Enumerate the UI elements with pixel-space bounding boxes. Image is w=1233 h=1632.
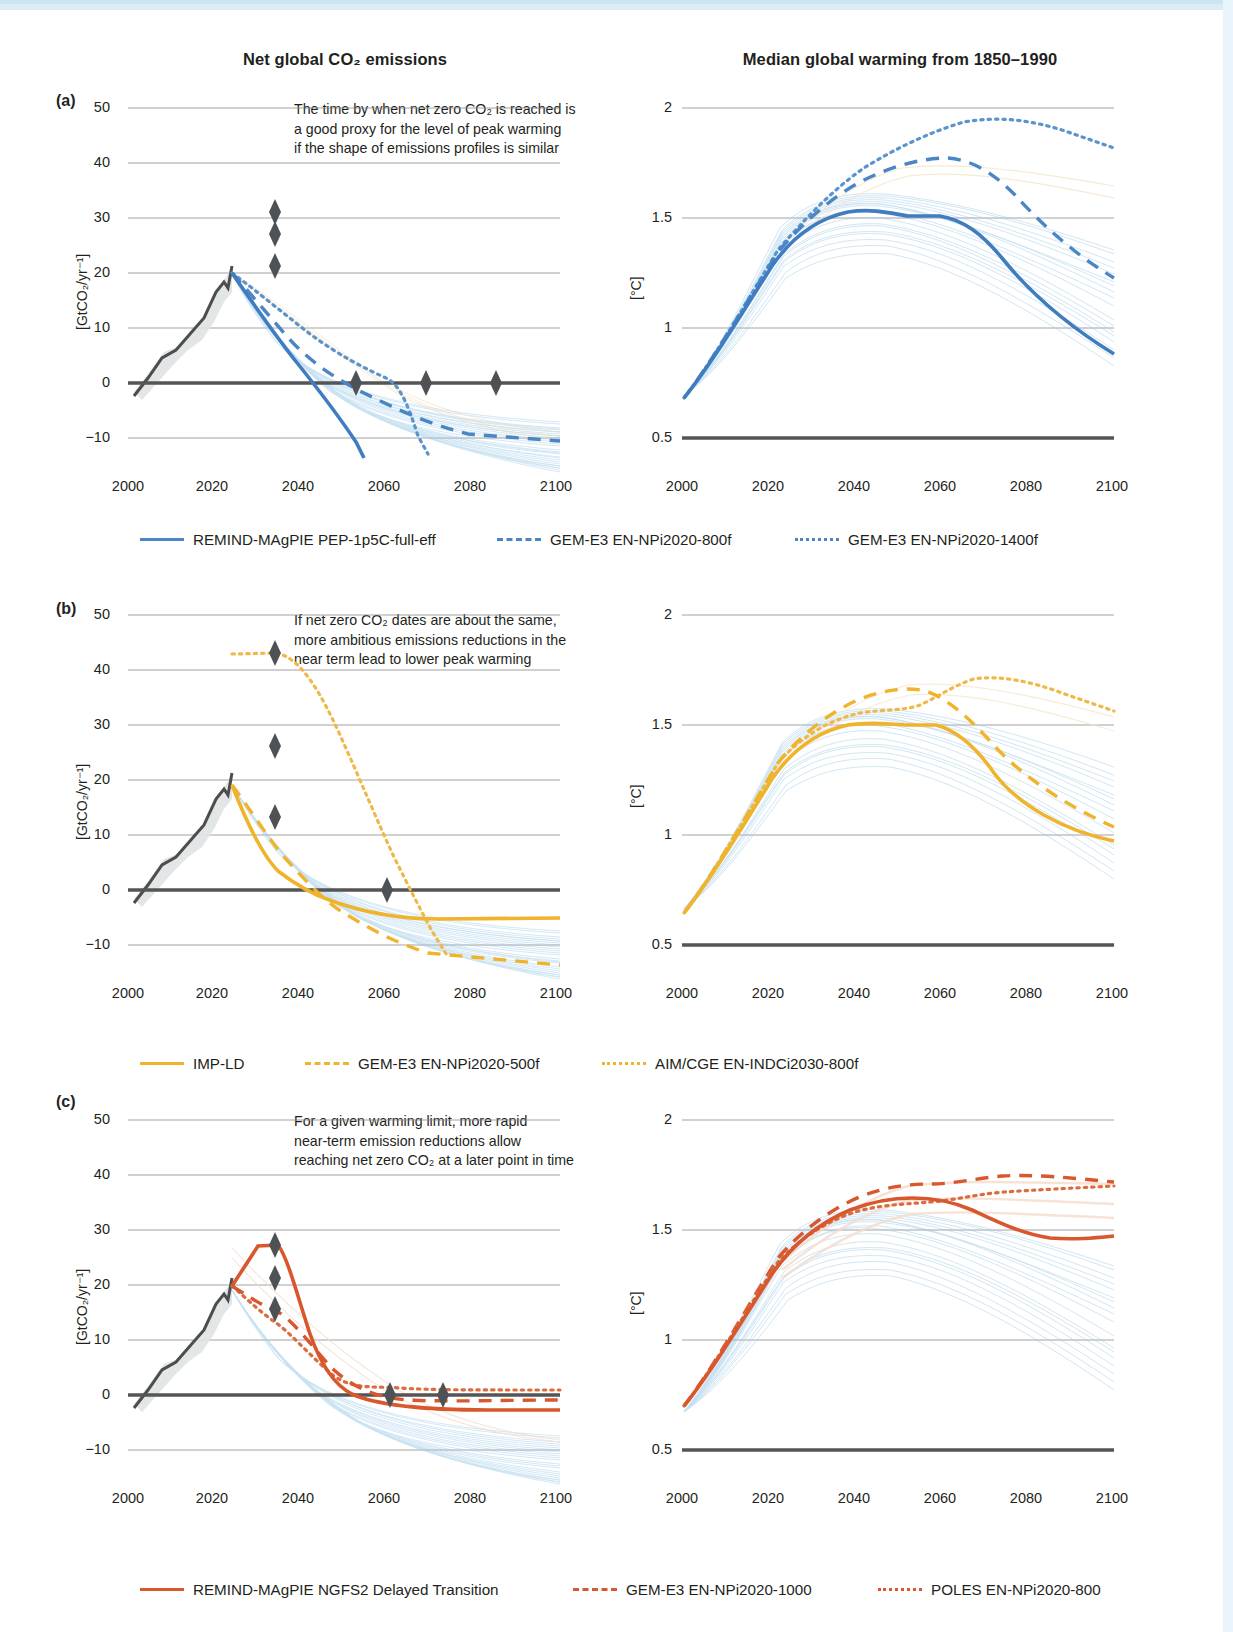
panel-a-warming-plot (682, 106, 1114, 476)
xtick: 2000 (98, 478, 158, 494)
xtick: 2000 (652, 478, 712, 494)
legend-label: GEM-E3 EN-NPi2020-1000 (626, 1581, 812, 1598)
panel-c-series-solid (232, 1245, 560, 1410)
xtick: 2060 (354, 478, 414, 494)
net-zero-marker (381, 877, 393, 903)
ytick: −10 (62, 1441, 110, 1457)
legend-swatch-solid (140, 1588, 184, 1591)
xtick: 2080 (996, 985, 1056, 1001)
legend-item[interactable]: GEM-E3 EN-NPi2020-1000 (573, 1578, 812, 1600)
panel-a-right-ylabel: [°C] (628, 277, 644, 301)
panel-b-emissions-plot (128, 613, 560, 983)
panel-c-warming-dashed (684, 1175, 1114, 1406)
ytick: 20 (70, 771, 110, 787)
legend-swatch-dotted (878, 1588, 922, 1591)
panel-c-emissions-plot (128, 1118, 560, 1488)
ytick: 0 (70, 881, 110, 897)
emission-marker (269, 733, 281, 759)
xtick: 2060 (910, 985, 970, 1001)
legend-swatch-dashed (305, 1062, 349, 1065)
xtick: 2040 (824, 985, 884, 1001)
legend-swatch-dotted (602, 1062, 646, 1065)
emission-marker-2030-group (269, 199, 281, 279)
panel-b-warming-svg (682, 613, 1114, 983)
legend-item[interactable]: REMIND-MAgPIE PEP-1p5C-full-eff (140, 528, 436, 550)
xtick: 2020 (182, 985, 242, 1001)
scenario-ensemble (684, 709, 1114, 909)
legend-label: GEM-E3 EN-NPi2020-800f (550, 531, 731, 548)
historical-uncertainty-band (134, 266, 232, 400)
xtick: 2040 (268, 1490, 328, 1506)
panel-c-series-dotted (232, 1286, 560, 1390)
legend-swatch-dashed (497, 538, 541, 541)
ytick: 50 (70, 99, 110, 115)
panel-c-warming-svg (682, 1118, 1114, 1488)
legend-item[interactable]: GEM-E3 EN-NPi2020-1400f (795, 528, 1038, 550)
xtick: 2100 (526, 478, 586, 494)
ytick: 2 (632, 1111, 672, 1127)
gridlines (682, 108, 1114, 328)
legend-swatch-solid (140, 1062, 184, 1065)
ytick: 20 (70, 264, 110, 280)
legend-item[interactable]: AIM/CGE EN-INDCi2030-800f (602, 1052, 858, 1074)
legend-swatch-dotted (795, 538, 839, 541)
panel-a-legend: REMIND-MAgPIE PEP-1p5C-full-eff GEM-E3 E… (0, 528, 1233, 550)
xtick: 2020 (738, 1490, 798, 1506)
panel-label-c: (c) (56, 1093, 76, 1111)
historical-emissions-line (134, 1278, 232, 1408)
legend-item[interactable]: GEM-E3 EN-NPi2020-500f (305, 1052, 539, 1074)
xtick: 2100 (526, 985, 586, 1001)
warm-ensemble-tint (232, 1248, 560, 1442)
ytick: 0.5 (626, 936, 672, 952)
right-column-title: Median global warming from 1850–1990 (640, 50, 1160, 69)
top-decoration-band-2 (0, 0, 1233, 4)
panel-b-warming-plot (682, 613, 1114, 983)
ytick: 2 (632, 606, 672, 622)
panel-a-warming-dashed (684, 158, 1114, 398)
legend-item[interactable]: POLES EN-NPi2020-800 (878, 1578, 1101, 1600)
panel-c-legend: REMIND-MAgPIE NGFS2 Delayed Transition G… (0, 1578, 1233, 1600)
ytick: 1.5 (626, 1221, 672, 1237)
xtick: 2000 (98, 985, 158, 1001)
emission-marker-2030-group (269, 640, 281, 830)
ytick: 0 (70, 374, 110, 390)
xtick: 2040 (824, 478, 884, 494)
xtick: 2000 (98, 1490, 158, 1506)
scenario-ensemble (684, 194, 1114, 396)
emission-marker (269, 804, 281, 830)
xtick: 2100 (1082, 1490, 1142, 1506)
legend-item[interactable]: IMP-LD (140, 1052, 244, 1074)
net-zero-marker (437, 1382, 449, 1408)
xtick: 2040 (268, 478, 328, 494)
ytick: 40 (70, 1166, 110, 1182)
right-decoration-band (1223, 0, 1233, 1632)
net-zero-marker (420, 370, 432, 396)
legend-label: POLES EN-NPi2020-800 (931, 1581, 1101, 1598)
ytick: −10 (62, 936, 110, 952)
panel-a-warming-svg (682, 106, 1114, 476)
panel-a-emissions-svg (128, 106, 560, 476)
xtick: 2100 (1082, 478, 1142, 494)
ytick: 40 (70, 661, 110, 677)
legend-item[interactable]: GEM-E3 EN-NPi2020-800f (497, 528, 731, 550)
panel-b-right-ylabel: [°C] (628, 785, 644, 809)
ytick: 10 (70, 826, 110, 842)
legend-swatch-solid (140, 538, 184, 541)
xtick: 2060 (354, 985, 414, 1001)
historical-uncertainty-band (134, 1278, 232, 1412)
left-column-title: Net global CO₂ emissions (145, 50, 545, 69)
historical-emissions-line (134, 266, 232, 396)
ytick: 0.5 (626, 1441, 672, 1457)
xtick: 2100 (526, 1490, 586, 1506)
ytick: 1.5 (626, 209, 672, 225)
xtick: 2020 (738, 985, 798, 1001)
panel-c-right-ylabel: [°C] (628, 1292, 644, 1316)
ytick: 40 (70, 154, 110, 170)
xtick: 2000 (652, 1490, 712, 1506)
ytick: 1 (632, 826, 672, 842)
legend-item[interactable]: REMIND-MAgPIE NGFS2 Delayed Transition (140, 1578, 499, 1600)
ytick: 1 (632, 1331, 672, 1347)
ytick: 50 (70, 606, 110, 622)
xtick: 2080 (996, 478, 1056, 494)
xtick: 2080 (440, 478, 500, 494)
